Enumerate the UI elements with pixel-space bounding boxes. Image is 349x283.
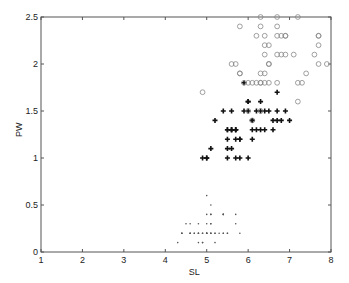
scatter-chart: 12345678 00.511.522.5 SL PW xyxy=(0,0,349,283)
data-point xyxy=(275,109,280,114)
x-tick-label: 3 xyxy=(121,255,126,265)
y-tick-label: 2.5 xyxy=(25,12,38,22)
data-point xyxy=(235,214,237,216)
data-point xyxy=(198,242,200,244)
data-point xyxy=(258,99,263,104)
y-axis-label: PW xyxy=(14,122,24,137)
data-point xyxy=(181,232,183,234)
data-point xyxy=(237,24,242,29)
data-point xyxy=(246,156,251,161)
data-point xyxy=(208,146,213,151)
data-point xyxy=(185,223,187,225)
data-point xyxy=(210,232,212,234)
data-point xyxy=(258,24,263,29)
data-point xyxy=(210,223,212,225)
data-point xyxy=(222,232,224,234)
data-point xyxy=(227,232,229,234)
data-point xyxy=(222,214,224,216)
data-point xyxy=(225,137,230,142)
data-point xyxy=(316,43,321,48)
data-point xyxy=(202,232,204,234)
data-point xyxy=(262,52,267,57)
data-point xyxy=(316,62,321,67)
plot-area xyxy=(41,17,331,252)
data-point xyxy=(204,156,209,161)
data-point xyxy=(237,71,242,76)
data-point xyxy=(206,232,208,234)
data-point xyxy=(206,223,208,225)
data-point xyxy=(235,223,237,225)
data-point xyxy=(233,156,238,161)
data-point xyxy=(206,195,208,197)
data-point xyxy=(221,109,226,114)
series-setosa xyxy=(177,195,241,244)
data-point xyxy=(266,62,271,67)
x-tick-label: 1 xyxy=(38,255,43,265)
data-point xyxy=(287,118,292,123)
x-axis: 12345678 xyxy=(38,17,333,265)
data-point xyxy=(225,156,230,161)
data-point xyxy=(254,33,259,38)
x-axis-label: SL xyxy=(189,267,200,277)
data-point xyxy=(193,232,195,234)
y-tick-label: 1 xyxy=(33,153,38,163)
x-tick-label: 8 xyxy=(328,255,333,265)
y-axis: 00.511.522.5 xyxy=(25,12,331,257)
data-point xyxy=(271,127,276,132)
data-point xyxy=(312,52,317,57)
data-point xyxy=(213,118,218,123)
data-point xyxy=(218,232,220,234)
x-tick-label: 5 xyxy=(204,255,209,265)
data-point xyxy=(229,109,234,114)
data-point xyxy=(304,71,309,76)
data-point xyxy=(202,242,204,244)
data-point xyxy=(250,137,255,142)
data-point xyxy=(200,90,205,95)
data-point xyxy=(225,146,230,151)
data-point xyxy=(198,232,200,234)
data-point xyxy=(206,214,208,216)
data-point xyxy=(214,232,216,234)
series-virginica xyxy=(200,15,329,123)
y-tick-label: 0.5 xyxy=(25,200,38,210)
data-point xyxy=(177,242,179,244)
data-point xyxy=(210,204,212,206)
data-point xyxy=(233,137,238,142)
series-versicolor xyxy=(200,80,292,160)
data-point xyxy=(239,232,241,234)
x-tick-label: 7 xyxy=(287,255,292,265)
data-points xyxy=(177,15,329,244)
y-tick-label: 1.5 xyxy=(25,106,38,116)
data-point xyxy=(210,214,212,216)
x-tick-label: 4 xyxy=(163,255,168,265)
data-point xyxy=(262,33,267,38)
y-tick-label: 2 xyxy=(33,59,38,69)
y-tick-label: 0 xyxy=(33,247,38,257)
data-point xyxy=(233,127,238,132)
data-point xyxy=(291,52,296,57)
data-point xyxy=(271,118,276,123)
data-point xyxy=(275,24,280,29)
data-point xyxy=(246,99,251,104)
data-point xyxy=(189,232,191,234)
data-point xyxy=(266,109,271,114)
x-tick-label: 2 xyxy=(80,255,85,265)
data-point xyxy=(275,80,280,85)
data-point xyxy=(214,242,216,244)
data-point xyxy=(295,99,300,104)
data-point xyxy=(279,118,284,123)
data-point xyxy=(198,223,200,225)
x-tick-label: 6 xyxy=(246,255,251,265)
data-point xyxy=(189,223,191,225)
data-point xyxy=(254,127,259,132)
data-point xyxy=(283,109,288,114)
data-point xyxy=(275,90,280,95)
data-point xyxy=(316,33,321,38)
